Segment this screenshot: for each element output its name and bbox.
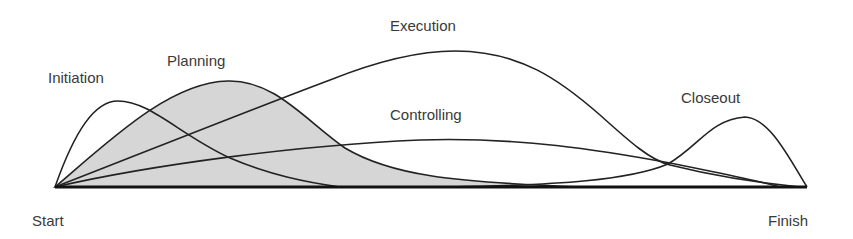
closeout-label: Closeout: [681, 89, 740, 106]
initiation-label: Initiation: [48, 69, 104, 86]
start-label: Start: [32, 212, 64, 229]
controlling-label: Controlling: [390, 106, 462, 123]
planning-label: Planning: [167, 52, 225, 69]
phase-diagram: Initiation Planning Execution Controllin…: [0, 0, 853, 239]
finish-label: Finish: [768, 212, 808, 229]
closeout-curve: [450, 117, 807, 187]
execution-label: Execution: [390, 17, 456, 34]
